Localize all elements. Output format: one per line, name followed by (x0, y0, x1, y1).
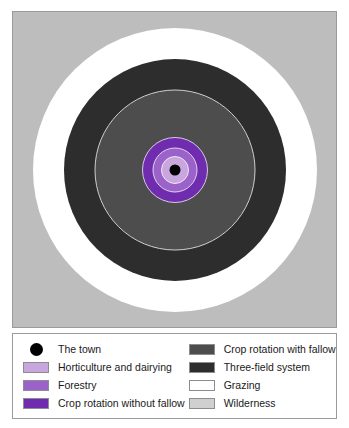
legend-item-crop-rotation-with-fallow: Crop rotation with fallow (189, 340, 336, 358)
legend-label: Crop rotation without fallow (58, 397, 185, 409)
legend-label: Crop rotation with fallow (224, 343, 336, 355)
legend-label: Wilderness (224, 397, 276, 409)
legend-column-right: Crop rotation with fallow Three-field sy… (185, 340, 336, 412)
legend-swatch-icon (189, 398, 215, 409)
legend-swatch-icon (189, 362, 215, 373)
legend-item-wilderness: Wilderness (189, 394, 336, 412)
legend-item-forestry: Forestry (23, 376, 185, 394)
legend-item-horticulture-and-dairying: Horticulture and dairying (23, 358, 185, 376)
von-thunen-figure: The town Horticulture and dairying Fores… (0, 0, 349, 428)
legend-item-three-field-system: Three-field system (189, 358, 336, 376)
legend-label: Horticulture and dairying (58, 361, 172, 373)
legend-label: Three-field system (224, 361, 310, 373)
legend-swatch-icon (23, 398, 49, 409)
legend-swatch-icon (23, 362, 49, 373)
legend-item-the-town: The town (23, 340, 185, 358)
legend-swatch-icon (189, 380, 215, 391)
map-panel (12, 11, 337, 328)
town-center-dot (169, 164, 180, 175)
legend-column-left: The town Horticulture and dairying Fores… (13, 340, 185, 412)
legend-label: The town (58, 343, 101, 355)
legend-item-crop-rotation-without-fallow: Crop rotation without fallow (23, 394, 185, 412)
legend: The town Horticulture and dairying Fores… (12, 333, 337, 419)
legend-item-grazing: Grazing (189, 376, 336, 394)
legend-swatch-circle-icon (23, 344, 49, 355)
legend-swatch-icon (189, 344, 215, 355)
legend-label: Grazing (224, 379, 261, 391)
legend-swatch-icon (23, 380, 49, 391)
legend-label: Forestry (58, 379, 97, 391)
